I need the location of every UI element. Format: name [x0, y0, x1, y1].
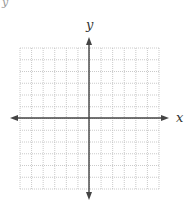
arrow-left-icon [10, 115, 18, 121]
arrow-up-icon [86, 37, 92, 45]
axes [10, 37, 169, 200]
corner-glyph: y [1, 0, 9, 9]
arrow-right-icon [161, 115, 169, 121]
arrow-down-icon [86, 192, 92, 200]
coordinate-plane: y y x [0, 0, 193, 203]
x-axis-label: x [176, 110, 184, 125]
y-axis-label: y [85, 17, 94, 32]
